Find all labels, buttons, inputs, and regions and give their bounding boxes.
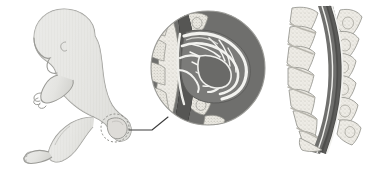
illustration-root: Spina bifida (myelomeningocele) illustra…: [0, 0, 377, 172]
spina-bifida-illustration: Spina bifida (myelomeningocele) illustra…: [0, 0, 377, 172]
